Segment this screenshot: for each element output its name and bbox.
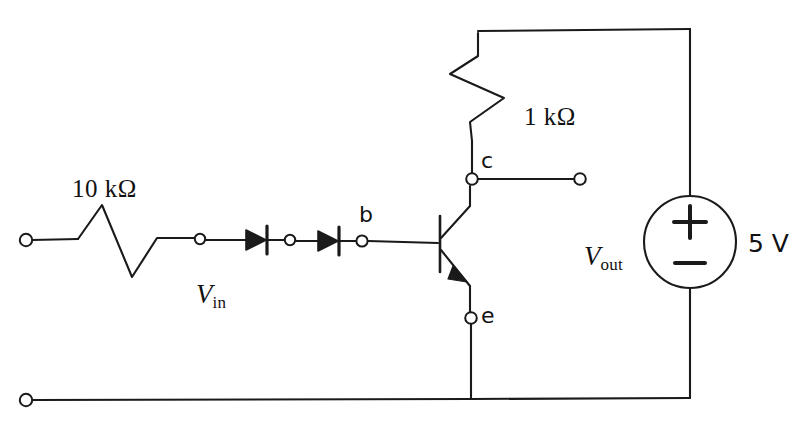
collector-resistor-label: 1 kΩ xyxy=(524,104,576,129)
diode-1-symbol xyxy=(246,226,267,254)
wire-top-rail xyxy=(478,29,690,31)
wire-base-to-transistor xyxy=(368,241,438,243)
collector-lead xyxy=(441,186,470,238)
transistor-symbol xyxy=(440,186,470,312)
base-terminal-node[interactable] xyxy=(356,235,367,246)
v-in-symbol: V xyxy=(196,279,213,309)
v-out-symbol: V xyxy=(584,241,601,271)
mid-resistor-node[interactable] xyxy=(195,234,205,244)
source-value-label: 5 V xyxy=(748,231,789,256)
v-out-subscript: out xyxy=(601,255,624,274)
collector-node-label: c xyxy=(481,150,493,172)
v-in-label: Vin xyxy=(196,281,226,311)
input-resistor-zigzag xyxy=(78,205,194,277)
collector-resistor-zigzag xyxy=(450,33,504,141)
emitter-terminal-node[interactable] xyxy=(465,312,477,324)
circuit-diagram: 10 kΩ 1 kΩ Vin Vout 5 V b c e xyxy=(0,0,802,433)
v-out-label: Vout xyxy=(584,243,623,273)
wire-bottom-rail xyxy=(32,398,690,400)
collector-terminal-node[interactable] xyxy=(466,173,478,185)
v-in-subscript: in xyxy=(213,293,227,312)
diode-2-symbol xyxy=(318,227,339,255)
input-terminal-node[interactable] xyxy=(20,234,32,246)
input-resistor-label: 10 kΩ xyxy=(72,176,137,201)
ground-terminal-node[interactable] xyxy=(20,394,32,406)
emitter-arrow xyxy=(448,266,467,282)
emitter-node-label: e xyxy=(481,305,495,327)
output-terminal-node[interactable] xyxy=(574,173,586,185)
circuit-schematic-svg xyxy=(0,0,802,433)
inter-diode-node[interactable] xyxy=(285,235,295,245)
base-node-label: b xyxy=(359,204,373,226)
wire-input-lead xyxy=(32,239,78,240)
